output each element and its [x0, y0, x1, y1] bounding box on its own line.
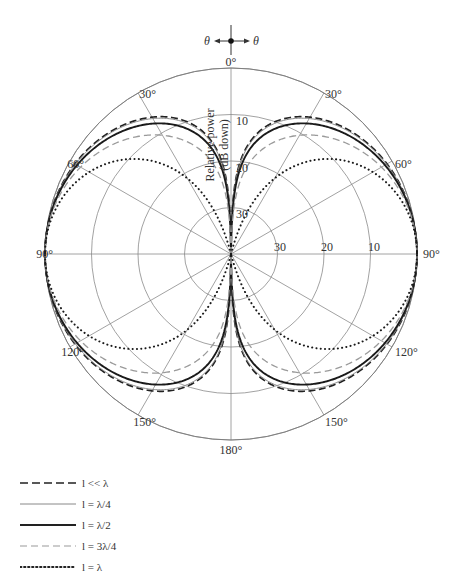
angle-label-0: 0°	[226, 55, 237, 69]
radial-axis-title-line2: (dB down)	[217, 119, 231, 171]
angle-label-right: 150°	[325, 415, 348, 429]
radial-tick-label: 10	[236, 114, 248, 128]
dashed-gray-line-icon	[20, 541, 76, 551]
radial-axis-title-line1: Relative power	[203, 109, 217, 182]
angle-label-left: 120°	[61, 345, 84, 359]
angle-label-right: 30°	[325, 87, 342, 101]
origin-dot-icon	[228, 38, 234, 44]
dotted-line-icon	[20, 562, 76, 572]
theta-right-label: θ	[253, 34, 259, 48]
legend-item: l = λ/2	[20, 514, 116, 535]
thin-solid-line-icon	[20, 499, 76, 509]
dashed-dark-line-icon	[20, 478, 76, 488]
legend-label: l = λ/2	[82, 519, 111, 531]
angle-label-right: 60°	[395, 157, 412, 171]
theta-direction-indicator: θθ	[204, 25, 259, 55]
radial-tick-label: 30	[236, 207, 248, 221]
legend-label: l << λ	[82, 477, 108, 489]
radial-tick-label: 10	[368, 240, 380, 254]
radial-tick-label: 20	[321, 240, 333, 254]
legend-item: l = λ	[20, 556, 116, 577]
radial-axis-title: Relative power(dB down)	[203, 109, 231, 182]
angle-label-right: 120°	[395, 345, 418, 359]
angle-label-left: 30°	[139, 87, 156, 101]
legend-label: l = 3λ/4	[82, 540, 116, 552]
axis-labels: 0°180°30°60°90°120°150°30°60°90°120°150°…	[36, 55, 440, 457]
angle-label-right: 90°	[423, 247, 440, 261]
radial-tick-label: 20	[236, 161, 248, 175]
legend-label: l = λ	[82, 561, 102, 573]
arrow-right-icon	[244, 39, 250, 44]
arrow-left-icon	[214, 39, 220, 44]
thick-solid-line-icon	[20, 520, 76, 530]
legend-item: l = λ/4	[20, 493, 116, 514]
legend-item: l = 3λ/4	[20, 535, 116, 556]
legend: l << λ l = λ/4 l = λ/2 l = 3λ/4 l = λ	[20, 472, 116, 577]
angle-label-left: 90°	[36, 247, 53, 261]
angle-label-180: 180°	[220, 443, 243, 457]
angle-label-left: 150°	[133, 415, 156, 429]
legend-item: l << λ	[20, 472, 116, 493]
theta-left-label: θ	[204, 34, 210, 48]
angle-label-left: 60°	[67, 157, 84, 171]
legend-label: l = λ/4	[82, 498, 111, 510]
radial-tick-label: 30	[274, 240, 286, 254]
